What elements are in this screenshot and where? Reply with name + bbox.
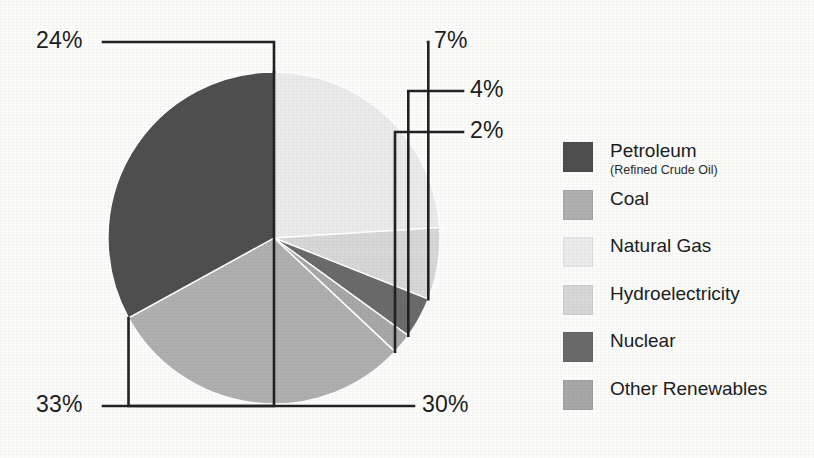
leader-line-natural-gas xyxy=(103,42,274,72)
legend-label: Petroleum xyxy=(610,140,718,162)
legend-item-other-renewables[interactable]: Other Renewables xyxy=(563,378,811,426)
legend-swatch-natural-gas xyxy=(563,237,593,267)
legend-label: Hydroelectricity xyxy=(610,283,740,305)
callout-label-natural-gas: 24% xyxy=(36,27,83,54)
legend-swatch-other-renewables xyxy=(563,380,593,410)
legend-label: Natural Gas xyxy=(610,235,711,257)
legend-item-petroleum[interactable]: Petroleum(Refined Crude Oil) xyxy=(563,140,811,188)
callout-label-hydroelectricity: 7% xyxy=(434,27,468,54)
legend-sublabel: (Refined Crude Oil) xyxy=(610,163,718,177)
pie-slice-natural-gas[interactable] xyxy=(274,72,440,238)
legend-item-coal[interactable]: Coal xyxy=(563,188,811,236)
legend-text-group: Coal xyxy=(610,188,649,210)
legend-text-group: Petroleum(Refined Crude Oil) xyxy=(610,140,718,177)
legend-label: Other Renewables xyxy=(610,378,767,400)
pie-chart-svg xyxy=(0,0,560,458)
legend-swatch-hydroelectricity xyxy=(563,285,593,315)
callout-label-other-renewables: 2% xyxy=(470,117,504,144)
legend-text-group: Other Renewables xyxy=(610,378,767,400)
legend-item-natural-gas[interactable]: Natural Gas xyxy=(563,235,811,283)
legend-item-hydroelectricity[interactable]: Hydroelectricity xyxy=(563,283,811,331)
legend-text-group: Nuclear xyxy=(610,330,675,352)
callout-label-petroleum: 33% xyxy=(36,391,83,418)
legend-swatch-coal xyxy=(563,190,593,220)
legend-text-group: Natural Gas xyxy=(610,235,711,257)
legend-item-nuclear[interactable]: Nuclear xyxy=(563,330,811,378)
legend-swatch-nuclear xyxy=(563,332,593,362)
legend-text-group: Hydroelectricity xyxy=(610,283,740,305)
callout-label-nuclear: 4% xyxy=(470,76,504,103)
pie-chart xyxy=(0,0,560,458)
legend-swatch-petroleum xyxy=(563,142,593,172)
callout-label-coal: 30% xyxy=(422,391,469,418)
chart-page: 24% 7% 4% 2% 33% 30% Petroleum(Refined C… xyxy=(0,0,814,458)
legend-label: Coal xyxy=(610,188,649,210)
chart-legend: Petroleum(Refined Crude Oil)CoalNatural … xyxy=(563,140,811,425)
legend-label: Nuclear xyxy=(610,330,675,352)
